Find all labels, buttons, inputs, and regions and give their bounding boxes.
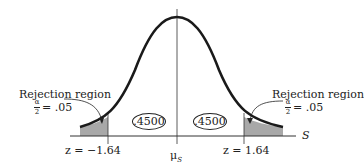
left-critical-label: z = −1.64 <box>65 145 121 156</box>
alpha-fraction: α2 <box>34 99 40 116</box>
bell-curve <box>80 17 283 127</box>
left-alpha-label: α2= .05 <box>34 99 72 116</box>
right-alpha-label: α2= .05 <box>285 99 323 116</box>
left-area-oval: .4500 <box>132 113 166 130</box>
alpha-fraction: α2 <box>285 99 291 116</box>
axis-label: S <box>302 130 310 141</box>
right-area-oval: .4500 <box>193 113 227 130</box>
right-critical-label: z = 1.64 <box>223 145 270 156</box>
mean-label: μS <box>170 150 182 164</box>
